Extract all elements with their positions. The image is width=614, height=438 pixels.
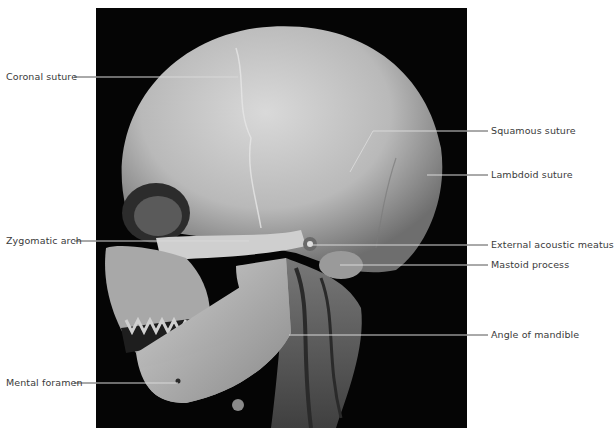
label-angle-of-mandible: Angle of mandible — [491, 329, 579, 341]
label-coronal-suture: Coronal suture — [6, 71, 77, 83]
label-squamous-suture: Squamous suture — [491, 125, 576, 137]
label-mastoid-process: Mastoid process — [491, 259, 569, 271]
label-lambdoid-suture: Lambdoid suture — [491, 169, 573, 181]
ct-skull-rendering — [96, 8, 467, 428]
label-external-acoustic-meatus: External acoustic meatus — [491, 239, 614, 251]
skull-illustration — [96, 8, 467, 428]
label-zygomatic-arch: Zygomatic arch — [6, 235, 82, 247]
label-mental-foramen: Mental foramen — [6, 377, 83, 389]
